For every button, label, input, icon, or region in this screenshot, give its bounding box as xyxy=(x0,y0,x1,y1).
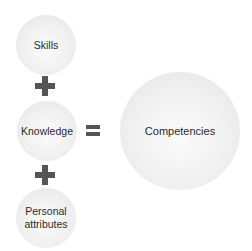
skills-label: Skills xyxy=(34,39,59,52)
competencies-label: Competencies xyxy=(145,125,215,137)
personal-attributes-label: Personal attributes xyxy=(24,205,68,231)
equals-icon xyxy=(86,125,100,137)
plus-icon xyxy=(35,165,55,185)
personal-attributes-circle: Personal attributes xyxy=(16,188,76,248)
skills-circle: Skills xyxy=(16,15,76,75)
knowledge-circle: Knowledge xyxy=(17,101,77,161)
knowledge-label: Knowledge xyxy=(21,125,73,138)
plus-icon xyxy=(35,76,55,96)
competencies-circle: Competencies xyxy=(120,72,240,190)
